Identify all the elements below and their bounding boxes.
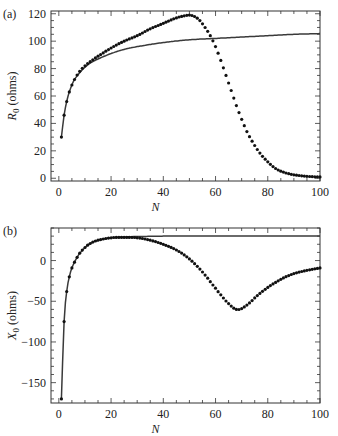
y-tick-label: 0 — [40, 171, 46, 185]
x-tick-label: 80 — [262, 407, 274, 421]
x-tick-label: 0 — [56, 185, 62, 199]
x-tick-label: 80 — [262, 185, 274, 199]
dotted-curve — [60, 14, 322, 179]
panel-label: (b) — [3, 224, 17, 238]
x-tick-label: 60 — [210, 407, 222, 421]
panel-b-reactance-plot: 020406080100−150−100−500(b)NX0 (ohms) — [3, 224, 329, 436]
chart-figure: 020406080100020406080100120(a)NR0 (ohms)… — [0, 0, 338, 436]
y-axis-label: X0 (ohms) — [5, 291, 21, 341]
dotted-curve — [60, 236, 322, 401]
x-tick-label: 40 — [157, 407, 169, 421]
x-tick-label: 20 — [105, 185, 117, 199]
y-tick-label: 100 — [28, 34, 46, 48]
y-tick-label: 60 — [34, 89, 46, 103]
x-tick-label: 100 — [311, 407, 329, 421]
y-tick-label: −100 — [21, 335, 46, 349]
plot-frame — [51, 11, 320, 181]
y-tick-label: 120 — [28, 7, 46, 21]
y-tick-label: 40 — [34, 116, 46, 130]
x-tick-label: 0 — [56, 407, 62, 421]
y-tick-label: −50 — [27, 294, 46, 308]
y-tick-label: 80 — [34, 62, 46, 76]
y-tick-label: −150 — [21, 376, 46, 390]
y-tick-label: 20 — [34, 144, 46, 158]
x-tick-label: 20 — [105, 407, 117, 421]
x-tick-label: 100 — [311, 185, 329, 199]
panel-label: (a) — [3, 7, 16, 21]
x-tick-label: 60 — [210, 185, 222, 199]
x-axis-label: N — [150, 200, 160, 214]
y-axis-label: R0 (ohms) — [5, 72, 21, 122]
y-tick-label: 0 — [40, 254, 46, 268]
x-axis-label: N — [150, 422, 160, 436]
solid-curve — [61, 34, 320, 138]
panel-a-resistance-plot: 020406080100020406080100120(a)NR0 (ohms) — [3, 7, 329, 214]
x-tick-label: 40 — [157, 185, 169, 199]
